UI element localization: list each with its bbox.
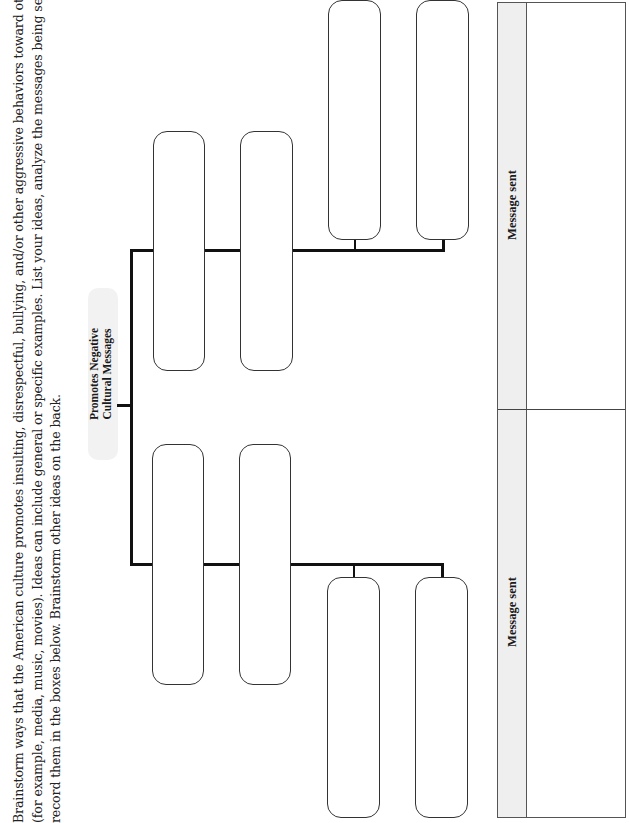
upper-drop-connector-1 — [354, 239, 356, 251]
central-stub-connector — [117, 404, 131, 407]
lower-idea-box-2[interactable] — [239, 444, 291, 685]
upper-message-box-2[interactable] — [416, 0, 469, 240]
central-node-line-1: Promotes Negative — [88, 288, 101, 460]
lower-message-box-1[interactable] — [327, 577, 380, 818]
instructions-line-1: Brainstorm ways that the American cultur… — [10, 13, 29, 823]
lower-idea-box-1[interactable] — [152, 444, 204, 685]
instructions-text: Brainstorm ways that the American cultur… — [10, 13, 66, 823]
lower-message-box-2[interactable] — [415, 577, 468, 818]
table-header-label-top: Message sent — [498, 105, 526, 305]
upper-message-box-1[interactable] — [328, 0, 381, 240]
central-node-line-2: Cultural Messages — [101, 288, 114, 460]
lower-drop-connector-2 — [441, 564, 444, 578]
central-node-label: Promotes Negative Cultural Messages — [88, 288, 118, 460]
upper-idea-box-1[interactable] — [153, 131, 205, 371]
message-sent-cell-1[interactable] — [527, 3, 625, 409]
table-header-label-bottom: Message sent — [498, 512, 526, 712]
instructions-line-3: record them in the boxes below. Brainsto… — [47, 13, 66, 823]
upper-idea-box-2[interactable] — [240, 131, 293, 371]
trunk-connector — [130, 249, 133, 565]
instructions-line-2: (for example, media, music, movies). Ide… — [29, 13, 48, 823]
lower-drop-connector-1 — [353, 564, 355, 578]
upper-drop-connector-2 — [442, 239, 445, 251]
message-sent-cell-2[interactable] — [527, 410, 625, 817]
